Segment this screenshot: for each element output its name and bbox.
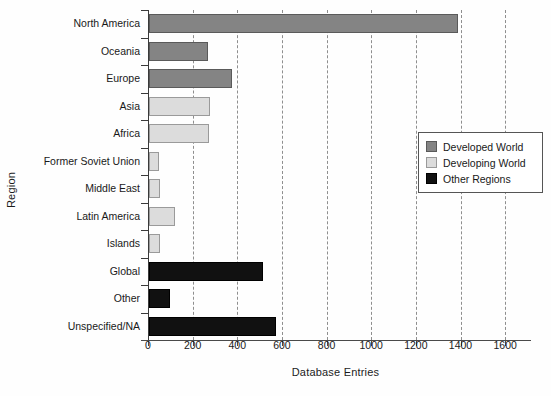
bar (149, 97, 210, 116)
x-axis-title: Database Entries (148, 366, 523, 378)
legend: Developed WorldDeveloping WorldOther Reg… (418, 132, 543, 193)
bar (149, 234, 160, 253)
y-axis-tick (141, 175, 148, 176)
x-axis-tick-label: 600 (273, 339, 291, 351)
legend-swatch-icon (426, 173, 437, 184)
y-axis-category-label: Africa (18, 128, 140, 139)
x-axis-tick-label: 1600 (493, 339, 516, 351)
bar (149, 69, 232, 88)
gridline (282, 10, 283, 340)
y-axis-tick (141, 120, 148, 121)
legend-item: Developed World (426, 139, 535, 154)
y-axis-category-label: Islands (18, 238, 140, 249)
y-axis-tick (141, 258, 148, 259)
y-axis-tick (141, 230, 148, 231)
y-axis-category-label: Other (18, 293, 140, 304)
legend-item: Other Regions (426, 171, 535, 186)
legend-swatch-icon (426, 157, 437, 168)
y-axis-category-label: Latin America (18, 211, 140, 222)
legend-label: Developed World (443, 141, 523, 153)
y-axis-category-label: Former Soviet Union (18, 156, 140, 167)
gridline (416, 10, 417, 340)
bar (149, 317, 276, 336)
y-axis-tick (141, 93, 148, 94)
x-axis-tick-label: 0 (145, 339, 151, 351)
legend-swatch-icon (426, 141, 437, 152)
y-axis-title-text: Region (5, 172, 17, 208)
y-axis-category-label: North America (18, 18, 140, 29)
y-axis-tick (141, 148, 148, 149)
bar (149, 262, 263, 281)
x-axis-tick-label: 1000 (360, 339, 383, 351)
y-axis-category-label: Europe (18, 73, 140, 84)
gridline (237, 10, 238, 340)
y-axis-category-label: Oceania (18, 46, 140, 57)
bar (149, 179, 160, 198)
x-axis-tick-label: 1200 (404, 339, 427, 351)
y-axis-category-label: Asia (18, 101, 140, 112)
bar (149, 207, 175, 226)
gridline (371, 10, 372, 340)
bar (149, 289, 170, 308)
bar-chart-figure: Region North AmericaOceaniaEuropeAsiaAfr… (0, 0, 551, 396)
gridline (327, 10, 328, 340)
y-axis-tick (141, 38, 148, 39)
x-axis-tick-label: 200 (184, 339, 202, 351)
bar (149, 14, 458, 33)
legend-label: Developing World (443, 157, 526, 169)
y-axis-tick (141, 65, 148, 66)
y-axis-category-label: Middle East (18, 183, 140, 194)
x-axis-tick-label: 400 (229, 339, 247, 351)
y-axis-category-labels: North AmericaOceaniaEuropeAsiaAfricaForm… (18, 10, 145, 340)
y-axis-tick (141, 203, 148, 204)
x-axis-tick-label: 1400 (449, 339, 472, 351)
y-axis-tick (141, 10, 148, 11)
y-axis-tick (141, 313, 148, 314)
bar (149, 42, 208, 61)
bar (149, 124, 209, 143)
y-axis-category-label: Unspecified/NA (18, 321, 140, 332)
bar (149, 152, 159, 171)
x-axis-tick-label: 800 (318, 339, 336, 351)
y-axis-category-label: Global (18, 266, 140, 277)
legend-label: Other Regions (443, 173, 511, 185)
legend-item: Developing World (426, 155, 535, 170)
y-axis-tick (141, 285, 148, 286)
